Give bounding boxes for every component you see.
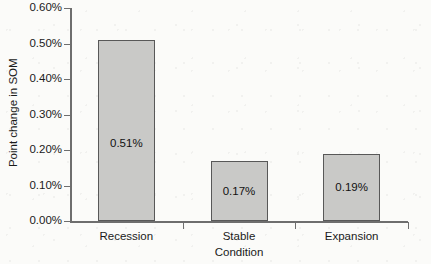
y-axis-tick-label: 0.00% [0, 215, 62, 227]
bar-value-label: 0.51% [99, 138, 154, 150]
x-axis-tick [295, 222, 296, 229]
x-axis-line [70, 221, 408, 223]
bar[interactable]: 0.19% [323, 154, 380, 221]
bar[interactable]: 0.51% [98, 40, 155, 221]
chart-figure: 0.60%0.50%0.40%0.30%0.20%0.10%0.00% Poin… [0, 0, 431, 264]
y-axis-tick-label: 0.60% [0, 2, 62, 14]
bar[interactable]: 0.17% [211, 161, 268, 221]
x-axis-title: Condition [70, 247, 408, 259]
x-category-label: Expansion [295, 231, 408, 243]
bar-value-label: 0.19% [324, 182, 379, 194]
x-axis-tick [408, 222, 409, 229]
y-axis-tick [64, 221, 70, 222]
plot-area: 0.51%0.17%0.19% [70, 8, 408, 221]
x-category-label: Recession [70, 231, 183, 243]
bar-value-label: 0.17% [212, 186, 267, 198]
y-axis-title: Point change in SOM [8, 33, 20, 193]
x-axis-tick [183, 222, 184, 229]
x-category-label: Stable [183, 231, 296, 243]
